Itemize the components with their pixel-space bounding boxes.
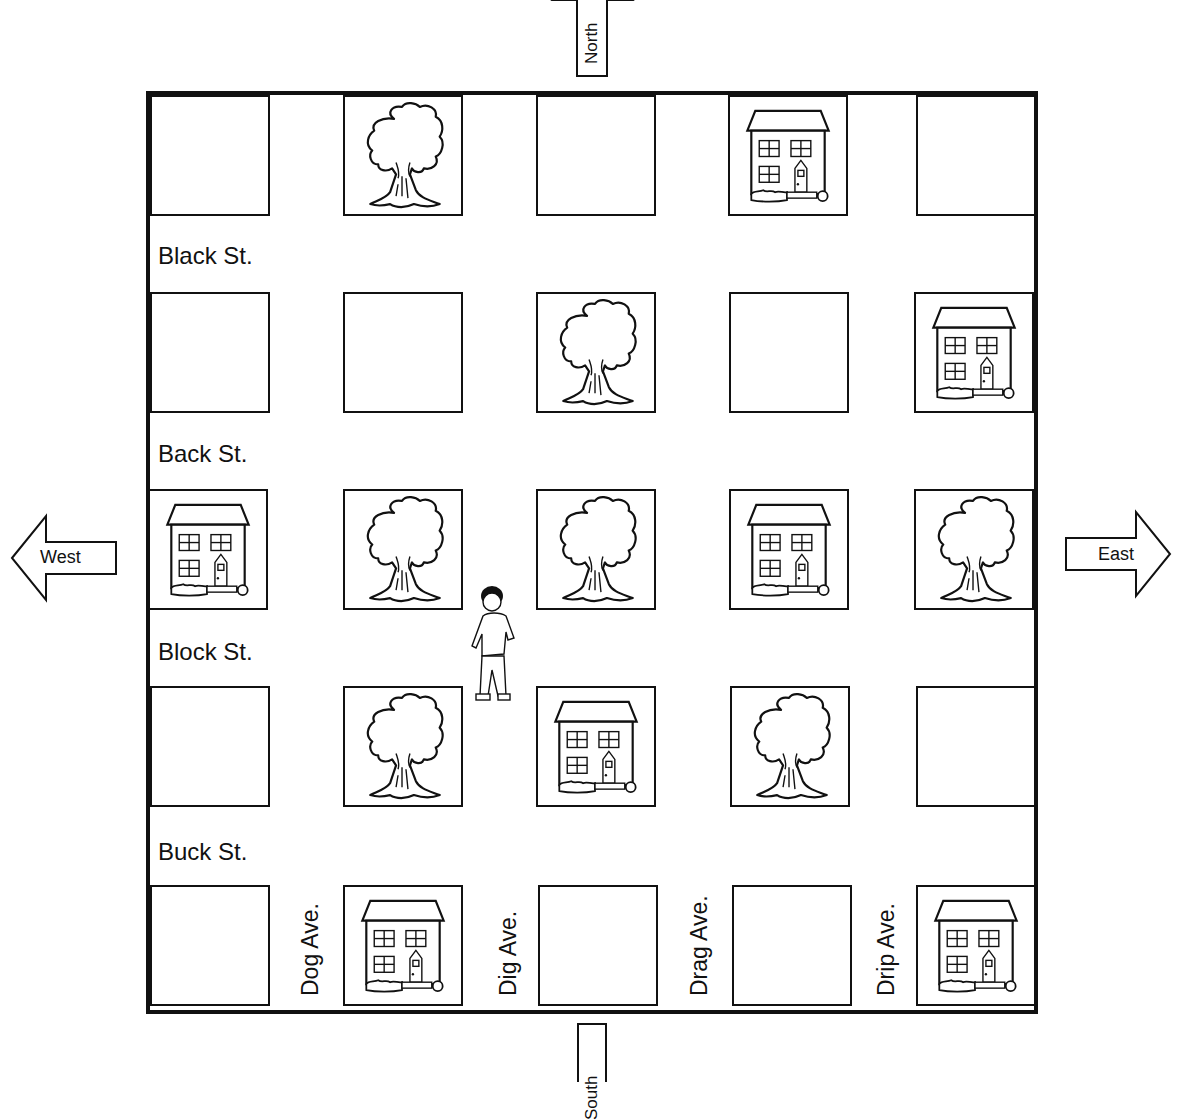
street-label-black: Black St. xyxy=(158,242,253,270)
block-r4-c4-tree[interactable] xyxy=(730,686,850,807)
tree-icon xyxy=(538,491,654,608)
north-label: North xyxy=(582,22,602,64)
avenue-label-drag: Drag Ave. xyxy=(686,895,713,996)
block-r2-c3-tree[interactable] xyxy=(536,292,656,413)
block-r5-c4-empty[interactable] xyxy=(732,885,852,1006)
west-label: West xyxy=(40,547,81,568)
block-r4-c1-empty[interactable] xyxy=(150,686,270,807)
block-r1-c3-empty[interactable] xyxy=(536,95,656,216)
house-icon xyxy=(730,97,846,214)
tree-icon xyxy=(345,688,461,805)
house-icon xyxy=(731,491,847,608)
tree-icon xyxy=(345,97,461,214)
block-r3-c3-tree[interactable] xyxy=(536,489,656,610)
block-r1-c4-house[interactable] xyxy=(728,95,848,216)
south-arrow xyxy=(576,1022,608,1082)
block-r2-c1-empty[interactable] xyxy=(150,292,270,413)
house-icon xyxy=(150,491,266,608)
avenue-label-dog: Dog Ave. xyxy=(297,903,324,996)
block-r1-c1-empty[interactable] xyxy=(150,95,270,216)
house-icon xyxy=(345,887,461,1004)
block-r4-c2-tree[interactable] xyxy=(343,686,463,807)
block-r3-c1-house[interactable] xyxy=(148,489,268,610)
block-r3-c2-tree[interactable] xyxy=(343,489,463,610)
tree-icon xyxy=(538,294,654,411)
block-r4-c5-empty[interactable] xyxy=(916,686,1036,807)
block-r5-c3-empty[interactable] xyxy=(538,885,658,1006)
block-r3-c5-tree[interactable] xyxy=(914,489,1034,610)
house-icon xyxy=(918,887,1034,1004)
house-icon xyxy=(916,294,1032,411)
street-label-block: Block St. xyxy=(158,638,253,666)
block-r5-c2-house[interactable] xyxy=(343,885,463,1006)
tree-icon xyxy=(345,491,461,608)
tree-icon xyxy=(916,491,1032,608)
block-r3-c4-house[interactable] xyxy=(729,489,849,610)
block-r5-c1-empty[interactable] xyxy=(150,885,270,1006)
block-r1-c5-empty[interactable] xyxy=(916,95,1036,216)
east-label: East xyxy=(1098,544,1134,565)
block-r2-c2-empty[interactable] xyxy=(343,292,463,413)
street-label-back: Back St. xyxy=(158,440,247,468)
avenue-label-drip: Drip Ave. xyxy=(873,903,900,996)
boy-figure[interactable] xyxy=(468,578,530,708)
block-r1-c2-tree[interactable] xyxy=(343,95,463,216)
block-r5-c5-house[interactable] xyxy=(916,885,1036,1006)
avenue-label-dig: Dig Ave. xyxy=(495,911,522,996)
block-r2-c5-house[interactable] xyxy=(914,292,1034,413)
house-icon xyxy=(538,688,654,805)
block-r2-c4-empty[interactable] xyxy=(729,292,849,413)
south-label: South xyxy=(582,1076,602,1120)
tree-icon xyxy=(732,688,848,805)
block-r4-c3-house[interactable] xyxy=(536,686,656,807)
street-label-buck: Buck St. xyxy=(158,838,247,866)
